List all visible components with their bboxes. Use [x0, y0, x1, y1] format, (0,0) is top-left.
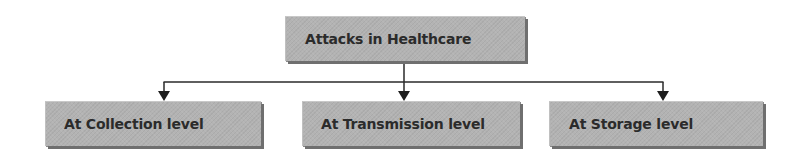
arrow-down-icon — [158, 91, 170, 101]
child-node-label: At Storage level — [569, 116, 693, 132]
root-node: Attacks in Healthcare — [285, 16, 525, 61]
arrow-down-icon — [398, 91, 410, 101]
arrow-down-icon — [657, 91, 669, 101]
child-node-storage: At Storage level — [549, 101, 763, 146]
child-node-label: At Collection level — [64, 116, 204, 132]
child-node-transmission: At Transmission level — [302, 101, 520, 146]
child-node-label: At Transmission level — [321, 116, 485, 132]
diagram-canvas: Attacks in Healthcare At Collection leve… — [0, 0, 806, 156]
child-node-collection: At Collection level — [45, 101, 261, 146]
root-node-label: Attacks in Healthcare — [305, 31, 471, 47]
